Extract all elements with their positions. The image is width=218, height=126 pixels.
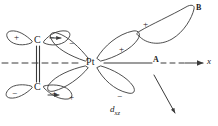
diagram-vector-layer bbox=[0, 0, 218, 126]
sign-lobe-pt-lower-right: − bbox=[117, 92, 122, 101]
point-label-b: B bbox=[196, 4, 201, 12]
sign-lobe-ligand-b: + bbox=[143, 20, 148, 29]
sign-lobe-carbon-top-right: − bbox=[49, 33, 54, 42]
orbital-label-subscript: xz bbox=[115, 109, 120, 116]
axis-label-x: x bbox=[207, 57, 211, 66]
point-label-a: A bbox=[153, 56, 159, 64]
lobe-pt-lower-right-shape bbox=[97, 66, 134, 93]
sign-lobe-carbon-top-left: + bbox=[14, 33, 19, 42]
sign-lobe-pt-upper-left: − bbox=[69, 39, 74, 48]
sign-lobe-pt-lower-left: + bbox=[69, 93, 74, 102]
diagonal-rotation-arrow bbox=[154, 75, 175, 113]
sign-lobe-pt-upper-right: + bbox=[119, 45, 124, 54]
sign-lobe-carbon-bottom-right: + bbox=[52, 89, 57, 98]
atom-label-pt: Pt bbox=[86, 57, 95, 67]
orbital-diagram-figure: Pt C C A B x dxz − + + − + − − + + bbox=[0, 0, 218, 126]
atom-label-carbon-top: C bbox=[34, 35, 41, 45]
atom-label-carbon-bottom: C bbox=[34, 82, 41, 92]
lobe-carbon-top-left-shape bbox=[7, 31, 32, 45]
orbital-label-dxz: dxz bbox=[110, 105, 120, 116]
lobe-carbon-bottom-left-shape bbox=[6, 85, 32, 98]
sign-lobe-carbon-bottom-left: − bbox=[12, 89, 17, 98]
